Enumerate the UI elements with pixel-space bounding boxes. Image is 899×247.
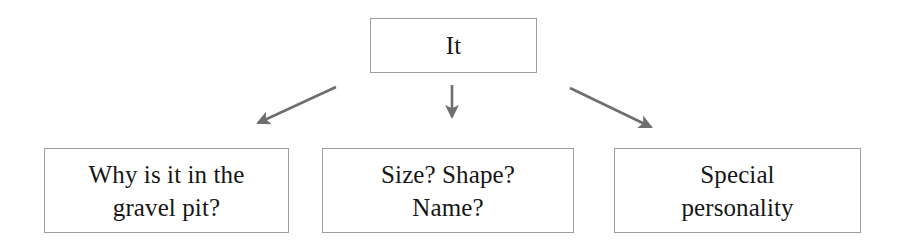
node-branch-personality-label: Special personality	[681, 158, 793, 224]
node-branch-attributes-label: Size? Shape? Name?	[381, 158, 515, 224]
arrow-root-to-reason	[258, 87, 336, 123]
diagram-canvas: It Why is it in the gravel pit? Size? Sh…	[0, 0, 899, 247]
node-root-label: It	[446, 29, 461, 62]
node-branch-reason-label: Why is it in the gravel pit?	[89, 158, 245, 224]
node-root-it: It	[370, 18, 537, 73]
node-branch-personality: Special personality	[614, 148, 861, 233]
node-branch-attributes: Size? Shape? Name?	[322, 148, 574, 233]
arrow-root-to-personality	[570, 88, 651, 127]
node-branch-reason: Why is it in the gravel pit?	[44, 148, 289, 233]
